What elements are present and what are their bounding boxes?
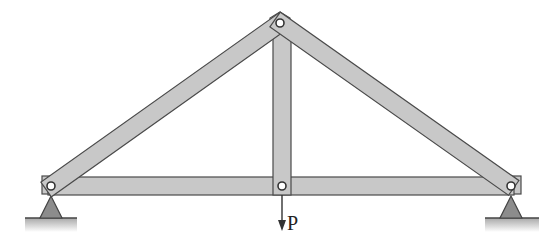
right-rafter	[270, 12, 519, 195]
left-rafter	[41, 13, 289, 197]
load-arrow-icon	[278, 195, 286, 231]
load-label: P	[287, 212, 298, 235]
left-ground	[25, 218, 77, 232]
right-ground	[485, 218, 539, 232]
apex-pin	[276, 19, 284, 27]
truss-diagram	[0, 0, 560, 245]
right-pin	[507, 182, 515, 190]
left-pin	[47, 182, 55, 190]
king-post	[273, 26, 291, 195]
right-support	[500, 196, 522, 218]
bottom-center-pin	[278, 182, 286, 190]
left-support	[40, 196, 62, 218]
